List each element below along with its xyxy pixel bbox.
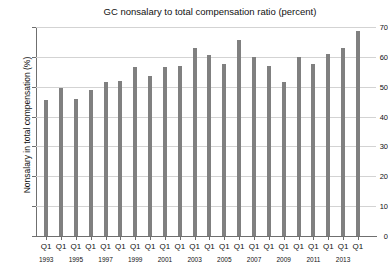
bar xyxy=(252,57,256,236)
y-axis-title: Nonsalary in total compensation (%) xyxy=(22,30,32,220)
bar xyxy=(222,64,226,236)
x-tick-mark xyxy=(195,236,196,240)
x-tick-mark xyxy=(135,236,136,240)
bar xyxy=(237,40,241,236)
x-tick-mark xyxy=(284,236,285,240)
gridline xyxy=(36,146,376,147)
bar xyxy=(74,99,78,236)
x-tick-mark xyxy=(224,236,225,240)
x-tick-mark xyxy=(343,236,344,240)
x-tick-year-label: 1993 xyxy=(31,256,61,263)
x-tick-mark xyxy=(239,236,240,240)
bar xyxy=(178,66,182,236)
bar xyxy=(59,88,63,236)
x-tick-mark xyxy=(76,236,77,240)
plot-area xyxy=(36,27,376,236)
x-tick-mark xyxy=(91,236,92,240)
bar xyxy=(267,66,271,236)
x-tick-mark xyxy=(254,236,255,240)
x-tick-year-label: 2013 xyxy=(328,256,358,263)
bar xyxy=(356,31,360,236)
x-tick-year-label: 2007 xyxy=(239,256,269,263)
bar xyxy=(118,81,122,236)
chart-title: GC nonsalary to total compensation ratio… xyxy=(40,6,380,17)
bar xyxy=(44,100,48,236)
bar xyxy=(193,48,197,236)
bar xyxy=(207,55,211,236)
gridline xyxy=(36,176,376,177)
bar xyxy=(163,67,167,236)
bar xyxy=(282,82,286,236)
bar xyxy=(89,90,93,236)
gridline xyxy=(36,27,376,28)
gridline xyxy=(36,117,376,118)
x-tick-mark xyxy=(180,236,181,240)
x-tick-year-label: 1999 xyxy=(120,256,150,263)
x-tick-mark xyxy=(313,236,314,240)
x-tick-mark xyxy=(358,236,359,240)
chart-figure: GC nonsalary to total compensation ratio… xyxy=(0,0,388,273)
x-tick-mark xyxy=(61,236,62,240)
x-tick-mark xyxy=(120,236,121,240)
x-tick-mark xyxy=(106,236,107,240)
x-tick-year-label: 1995 xyxy=(61,256,91,263)
bar xyxy=(148,76,152,236)
x-tick-year-label: 2009 xyxy=(269,256,299,263)
x-tick-mark xyxy=(209,236,210,240)
x-tick-year-label: 2005 xyxy=(209,256,239,263)
gridline xyxy=(36,206,376,207)
x-tick-mark xyxy=(46,236,47,240)
x-axis-line xyxy=(36,236,377,237)
x-tick-mark xyxy=(165,236,166,240)
x-tick-mark xyxy=(269,236,270,240)
bar xyxy=(104,82,108,236)
bar xyxy=(133,67,137,236)
x-tick-quarter-label: Q1 xyxy=(348,242,368,251)
bar xyxy=(326,54,330,236)
bar xyxy=(341,48,345,236)
bar xyxy=(311,64,315,236)
x-tick-year-label: 2003 xyxy=(180,256,210,263)
x-tick-mark xyxy=(150,236,151,240)
x-tick-year-label: 2001 xyxy=(150,256,180,263)
x-tick-mark xyxy=(328,236,329,240)
bar xyxy=(297,57,301,236)
y-tick-mark xyxy=(32,236,36,237)
x-tick-mark xyxy=(299,236,300,240)
x-tick-year-label: 2011 xyxy=(298,256,328,263)
gridline xyxy=(36,87,376,88)
gridline xyxy=(36,57,376,58)
x-tick-year-label: 1997 xyxy=(91,256,121,263)
